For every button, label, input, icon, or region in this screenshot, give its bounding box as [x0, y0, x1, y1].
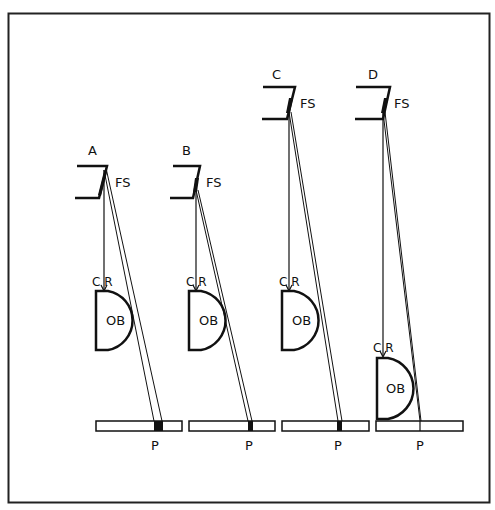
cr-label-c: C R: [279, 275, 300, 289]
fs-label-d: FS: [394, 96, 410, 111]
field-stop-aperture-c: [286, 98, 293, 113]
p-label-c: P: [334, 438, 342, 453]
ray-a2: [106, 168, 162, 421]
p-label-d: P: [416, 438, 424, 453]
ray-b2: [198, 190, 252, 421]
panel-b: B FS C R OB P: [170, 143, 275, 453]
image-spot-a: [154, 421, 163, 431]
ray-d1: [383, 112, 420, 421]
ob-label-a: OB: [106, 313, 125, 328]
image-spot-b: [248, 421, 253, 431]
cr-label-b: C R: [186, 275, 207, 289]
panel-d: D FS C R OB P: [355, 67, 463, 453]
panel-a: A FS C R OB P: [75, 143, 182, 453]
ob-label-d: OB: [386, 381, 405, 396]
panel-c-label: C: [272, 67, 281, 82]
field-stop-aperture-b: [193, 178, 199, 192]
ob-label-b: OB: [199, 313, 218, 328]
ray-c1: [289, 112, 338, 421]
fs-label-c: FS: [300, 96, 316, 111]
image-spot-c: [337, 421, 342, 431]
image-plane-a: [96, 421, 182, 431]
image-plane-c: [282, 421, 369, 431]
ray-a1: [104, 170, 154, 421]
panel-d-label: D: [368, 67, 378, 82]
panel-c: C FS C R OB P: [262, 67, 369, 453]
image-plane-b: [189, 421, 275, 431]
p-label-b: P: [245, 438, 253, 453]
panel-a-label: A: [88, 143, 97, 158]
ray-d2: [385, 112, 421, 421]
field-stop-aperture-a: [98, 171, 107, 196]
cr-label-a: C R: [92, 275, 113, 289]
p-label-a: P: [151, 438, 159, 453]
optics-diagram: A FS C R OB P B FS C R OB P: [0, 0, 495, 510]
fs-label-b: FS: [206, 175, 222, 190]
panel-b-label: B: [182, 143, 191, 158]
ob-label-c: OB: [292, 313, 311, 328]
ray-c2: [291, 112, 342, 421]
fs-label-a: FS: [115, 175, 131, 190]
ray-b1: [196, 190, 248, 421]
cr-label-d: C R: [373, 341, 394, 355]
